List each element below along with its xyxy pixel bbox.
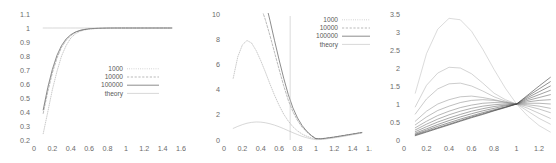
x-tick-label: 0.4 (444, 144, 454, 153)
legend-label: theory (105, 90, 124, 98)
data-curve (415, 95, 550, 132)
x-tick-label: 0.6 (274, 144, 284, 153)
x-tick-label: 0.8 (103, 144, 113, 153)
x-tick-label: 1.4 (348, 144, 358, 153)
y-tick-label: 0.2 (20, 136, 30, 145)
panel-2-svg: 0246810 00.20.40.60.811.21.41.6 10001000… (186, 0, 372, 163)
x-tick-label: 0.2 (422, 144, 432, 153)
panel-1-x-axis-ticks: 00.20.40.60.811.21.41.6 (32, 144, 186, 153)
y-tick-label: 0.4 (20, 108, 30, 117)
x-tick-label: 0.2 (47, 144, 57, 153)
legend-label: theory (320, 41, 339, 49)
chart-panel-2: 0246810 00.20.40.60.811.21.41.6 10001000… (186, 0, 372, 163)
figure-root: 0.20.30.40.50.60.70.80.911.1 00.20.40.60… (0, 0, 556, 163)
x-tick-label: 0.4 (256, 144, 266, 153)
x-tick-label: 0.2 (237, 144, 247, 153)
x-tick-label: 1.2 (329, 144, 339, 153)
y-tick-label: 2.5 (390, 46, 400, 55)
legend-label: 10000 (105, 73, 124, 80)
panel-2-curves (233, 0, 362, 140)
legend-label: 100000 (316, 32, 338, 39)
y-tick-label: 1 (396, 100, 400, 109)
y-tick-label: 0.6 (20, 80, 30, 89)
x-tick-label: 0 (222, 144, 226, 153)
y-tick-label: 2 (216, 110, 220, 119)
y-tick-label: 1.5 (390, 82, 400, 91)
data-curve (233, 40, 362, 139)
y-tick-label: 0.9 (20, 38, 30, 47)
legend-label: 10000 (320, 24, 339, 31)
y-tick-label: 3.5 (390, 10, 400, 19)
panel-1-legend: 100010000100000theory (101, 65, 159, 98)
y-tick-label: 0.7 (20, 66, 30, 75)
y-tick-label: 6 (216, 60, 220, 69)
x-tick-label: 0.4 (66, 144, 76, 153)
x-tick-label: 0.6 (84, 144, 94, 153)
legend-label: 100000 (101, 81, 123, 88)
x-tick-label: 0 (402, 144, 406, 153)
panel-3-x-axis-ticks: 00.20.40.60.811.2 (402, 144, 544, 153)
x-tick-label: 0.6 (467, 144, 477, 153)
y-tick-label: 4 (216, 85, 220, 94)
panel-1-svg: 0.20.30.40.50.60.70.80.911.1 00.20.40.60… (0, 0, 186, 163)
y-tick-label: 1.1 (20, 10, 30, 19)
y-tick-label: 0.3 (20, 122, 30, 131)
x-tick-label: 1.2 (534, 144, 544, 153)
y-tick-label: 3 (396, 28, 400, 37)
legend-label: 1000 (323, 16, 338, 23)
panel-3-svg: 00.511.522.533.5 00.20.40.60.811.2 (372, 0, 556, 163)
x-tick-label: 1 (314, 144, 318, 153)
x-tick-label: 1.2 (139, 144, 149, 153)
y-tick-label: 10 (212, 10, 220, 19)
x-tick-label: 0 (32, 144, 36, 153)
x-tick-label: 1.4 (158, 144, 168, 153)
panel-2-y-axis-ticks: 0246810 (212, 10, 220, 145)
x-tick-label: 1 (515, 144, 519, 153)
panel-2-x-axis-ticks: 00.20.40.60.811.21.41.6 (222, 144, 372, 153)
data-curve (415, 67, 550, 124)
y-tick-label: 0.5 (20, 94, 30, 103)
chart-panel-1: 0.20.30.40.50.60.70.80.911.1 00.20.40.60… (0, 0, 186, 163)
x-tick-label: 0.8 (293, 144, 303, 153)
y-tick-label: 8 (216, 35, 220, 44)
data-curve (233, 122, 362, 140)
data-curve (415, 83, 550, 118)
x-tick-label: 0.8 (489, 144, 499, 153)
data-curve (233, 0, 362, 139)
y-tick-label: 2 (396, 64, 400, 73)
x-tick-label: 1 (124, 144, 128, 153)
panel-2-legend: 100010000100000theory (316, 16, 370, 49)
chart-panel-3: 00.511.522.533.5 00.20.40.60.811.2 (372, 0, 556, 163)
y-tick-label: 0 (396, 136, 400, 145)
panel-1-y-axis-ticks: 0.20.30.40.50.60.70.80.911.1 (20, 10, 30, 145)
x-tick-label: 1.6 (176, 144, 186, 153)
legend-label: 1000 (108, 65, 123, 72)
panel-3-y-axis-ticks: 00.511.522.533.5 (390, 10, 400, 145)
y-tick-label: 0 (216, 136, 220, 145)
y-tick-label: 0.5 (390, 118, 400, 127)
y-tick-label: 0.8 (20, 52, 30, 61)
panel-3-curves (415, 18, 550, 135)
y-tick-label: 1 (26, 24, 30, 33)
